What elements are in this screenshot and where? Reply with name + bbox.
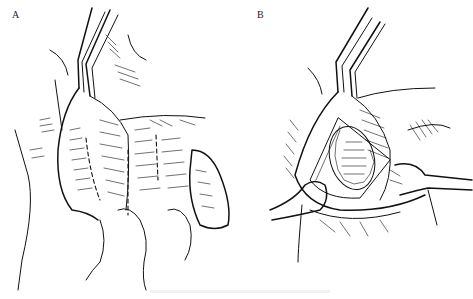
illustration-a (0, 0, 240, 299)
faint-caption-line (150, 290, 330, 293)
illustration-b (240, 0, 473, 299)
panel-a: A (0, 0, 240, 299)
panel-b: B (240, 0, 473, 299)
